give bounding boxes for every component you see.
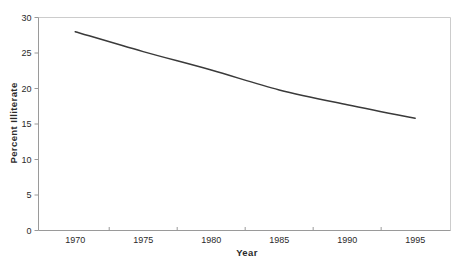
plot-area: 051015202530197019751980198519901995: [0, 0, 469, 265]
x-tick-label: 1990: [337, 235, 357, 245]
y-tick-label: 15: [21, 119, 31, 129]
x-tick-label: 1975: [133, 235, 153, 245]
y-tick-label: 5: [26, 190, 31, 200]
x-tick-label: 1970: [65, 235, 85, 245]
y-tick-label: 25: [21, 48, 31, 58]
illiteracy-line-chart: 051015202530197019751980198519901995 Per…: [0, 0, 469, 265]
y-tick-label: 30: [21, 13, 31, 23]
x-tick-label: 1985: [269, 235, 289, 245]
x-axis-title: Year: [236, 247, 258, 258]
data-series-line: [75, 32, 415, 119]
y-tick-label: 10: [21, 155, 31, 165]
y-tick-label: 20: [21, 84, 31, 94]
y-axis-title: Percent Illiterate: [8, 82, 19, 163]
x-tick-label: 1980: [201, 235, 221, 245]
y-tick-label: 0: [26, 226, 31, 236]
x-tick-label: 1995: [405, 235, 425, 245]
